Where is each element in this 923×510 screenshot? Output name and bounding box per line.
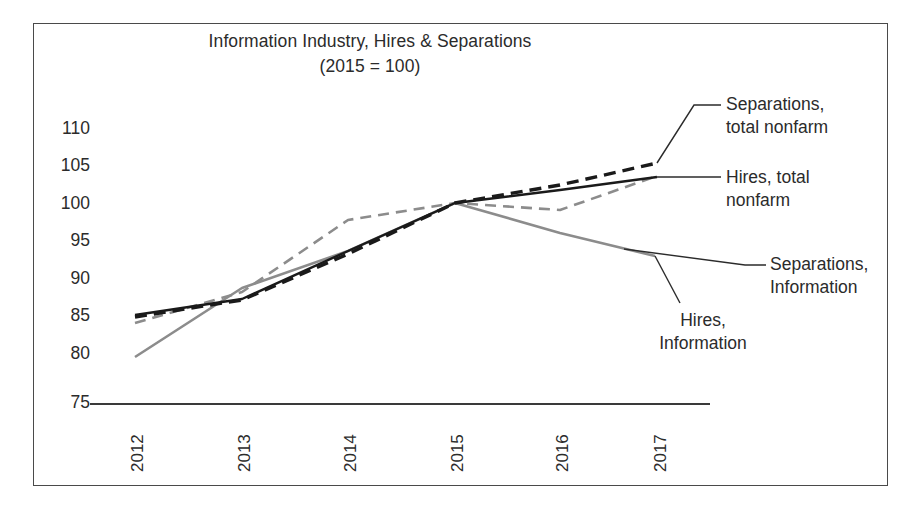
annotation-separations-total-nonfarm-line2: total nonfarm [726,116,828,139]
annotation-separations-information-line1: Separations, [770,253,868,276]
leader-line-hires-information [655,256,680,303]
annotation-hires-total-nonfarm-line2: nonfarm [726,189,810,212]
chart-figure: Information Industry, Hires & Separation… [0,0,923,510]
series-line-hires-information [135,203,655,357]
annotation-hires-total-nonfarm: Hires, total nonfarm [726,166,810,212]
annotation-hires-information: Hires, Information [623,309,783,355]
series-line-separations-information [135,176,657,323]
annotation-separations-total-nonfarm: Separations, total nonfarm [726,93,828,139]
annotation-separations-information-line2: Information [770,276,868,299]
leader-line-separations-total-nonfarm [657,105,721,163]
annotation-separations-total-nonfarm-line1: Separations, [726,93,828,116]
annotation-separations-information: Separations, Information [770,253,868,299]
leader-line-separations-information [624,249,766,265]
series-line-separations-total-nonfarm [135,163,657,317]
annotation-hires-information-line2: Information [623,332,783,355]
annotation-hires-information-line1: Hires, [623,309,783,332]
series-line-hires-total-nonfarm [135,177,657,315]
annotation-hires-total-nonfarm-line1: Hires, total [726,166,810,189]
